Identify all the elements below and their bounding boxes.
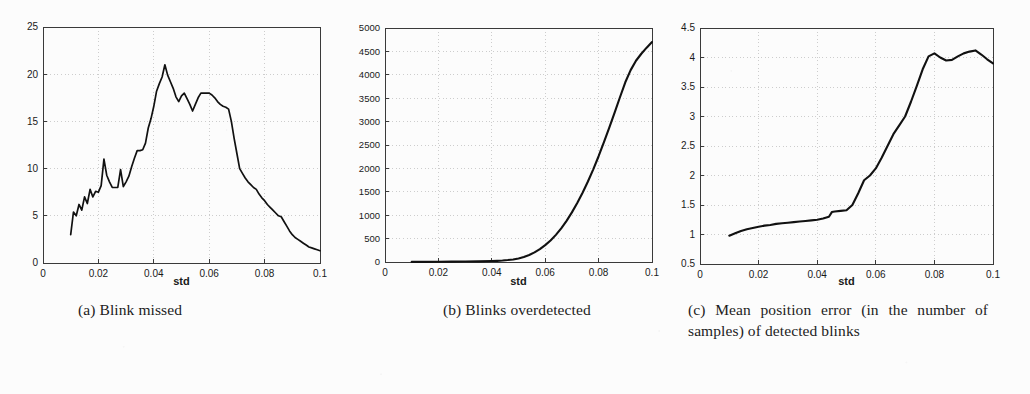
caption-c: (c) Mean position error (in the number o… (688, 300, 988, 342)
chart-b-xtick-label: 0.04 (482, 267, 502, 278)
chart-b-ytick-label: 2500 (359, 139, 380, 150)
chart-a-ytick-label: 5 (32, 210, 38, 221)
chart-b-ytick-label: 3000 (359, 116, 380, 127)
chart-c-ytick-label: 1 (689, 229, 695, 240)
chart-c-xtick-label: 0.02 (749, 269, 769, 280)
chart-a-xtick-label: 0.1 (313, 268, 327, 279)
chart-c-ytick-label: 3.5 (681, 81, 695, 92)
chart-b-ytick-label: 1000 (359, 210, 380, 221)
caption-b-text: (b) Blinks overdetected (443, 301, 591, 318)
chart-a-ytick-label: 10 (27, 163, 39, 174)
chart-a-xtick-label: 0.08 (255, 268, 275, 279)
chart-c-svg: 0.511.522.533.544.500.020.040.060.080.1 … (670, 0, 1030, 290)
chart-c-series-line (729, 50, 993, 235)
chart-a-series-line (71, 65, 320, 251)
chart-c-ytick-label: 3 (689, 111, 695, 122)
chart-b-grid (385, 28, 652, 262)
chart-b-ytick-label: 4500 (359, 46, 380, 57)
chart-panel-c: 0.511.522.533.544.500.020.040.060.080.1 … (670, 0, 1030, 290)
chart-b-xtick-label: 0 (382, 267, 388, 278)
chart-b-xtick-label: 0.1 (645, 267, 659, 278)
chart-c-xtick-label: 0.04 (807, 269, 827, 280)
chart-b-ytick-label: 4000 (359, 69, 380, 80)
chart-c-grid (700, 28, 993, 264)
chart-a-ytick-label: 20 (27, 69, 39, 80)
chart-b-ytick-label: 5000 (359, 22, 380, 33)
chart-a-ticks (43, 27, 320, 263)
caption-b: (b) Blinks overdetected (443, 300, 683, 321)
chart-b-xaxis-label: std (510, 275, 527, 287)
caption-c-text: (c) Mean position error (in the number o… (688, 301, 988, 339)
chart-a-ticklabels: 051015202500.020.040.060.080.1 (27, 21, 328, 279)
chart-c-xtick-label: 0.08 (925, 269, 945, 280)
chart-a-axes (43, 27, 320, 263)
chart-a-xtick-label: 0 (40, 268, 46, 279)
chart-c-ytick-label: 1.5 (681, 199, 695, 210)
chart-c-ytick-label: 4 (689, 52, 695, 63)
chart-b-ytick-label: 0 (375, 256, 380, 267)
chart-a-xtick-label: 0.02 (89, 268, 109, 279)
chart-b-ytick-label: 500 (364, 233, 380, 244)
chart-c-ytick-label: 0.5 (681, 258, 695, 269)
chart-a-xtick-label: 0.06 (199, 268, 219, 279)
chart-a-xtick-label: 0.04 (144, 268, 164, 279)
chart-a-grid (43, 27, 320, 263)
chart-b-xtick-label: 0.02 (429, 267, 449, 278)
chart-c-xtick-label: 0.06 (866, 269, 886, 280)
chart-c-ytick-label: 2.5 (681, 140, 695, 151)
chart-c-ytick-label: 2 (689, 170, 695, 181)
chart-b-ytick-label: 3500 (359, 93, 380, 104)
chart-a-ytick-label: 25 (27, 21, 39, 32)
chart-a-ytick-label: 15 (27, 116, 39, 127)
chart-b-ticklabels: 0500100015002000250030003500400045005000… (359, 22, 660, 278)
caption-a-text: (a) Blink missed (78, 301, 182, 318)
caption-a: (a) Blink missed (78, 300, 328, 321)
chart-a-svg: 051015202500.020.040.060.080.1 std (0, 0, 345, 290)
chart-panel-b: 0500100015002000250030003500400045005000… (345, 0, 670, 290)
chart-b-xtick-label: 0.06 (535, 267, 555, 278)
chart-b-ytick-label: 2000 (359, 163, 380, 174)
chart-c-ticklabels: 0.511.522.533.544.500.020.040.060.080.1 (681, 22, 1000, 280)
figure-root: 051015202500.020.040.060.080.1 std 05001… (0, 0, 1030, 394)
chart-c-xtick-label: 0 (697, 269, 703, 280)
chart-b-ytick-label: 1500 (359, 186, 380, 197)
chart-c-ytick-label: 4.5 (681, 22, 695, 33)
chart-c-xaxis-label: std (838, 275, 855, 287)
chart-panel-a: 051015202500.020.040.060.080.1 std (0, 0, 345, 290)
chart-c-xtick-label: 0.1 (986, 269, 1000, 280)
chart-a-ytick-label: 0 (32, 257, 38, 268)
chart-a-xaxis-label: std (173, 275, 190, 287)
chart-b-xtick-label: 0.08 (589, 267, 609, 278)
chart-b-svg: 0500100015002000250030003500400045005000… (345, 0, 670, 290)
